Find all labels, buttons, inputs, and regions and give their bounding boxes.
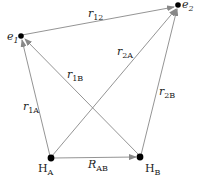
label-e1: e1 (7, 30, 19, 45)
node-HB (137, 154, 144, 161)
label-r1B: r1B (67, 68, 83, 83)
edge-r2B (141, 9, 177, 155)
edge-r2A (52, 9, 176, 156)
edge-r1A (22, 40, 50, 156)
label-e2: e2 (182, 0, 194, 13)
label-r12: r12 (88, 7, 103, 22)
label-HA: HA (38, 162, 54, 177)
node-e1 (18, 33, 24, 39)
diagram-canvas: e1 e2 HA HB r12 r1A r1B r2A r2B RAB (0, 0, 197, 178)
label-r2A: r2A (117, 45, 133, 60)
node-e2 (175, 2, 181, 8)
label-HB: HB (145, 162, 161, 177)
node-HA (48, 155, 55, 162)
label-RAB: RAB (87, 158, 108, 173)
label-r2B: r2B (159, 85, 175, 100)
